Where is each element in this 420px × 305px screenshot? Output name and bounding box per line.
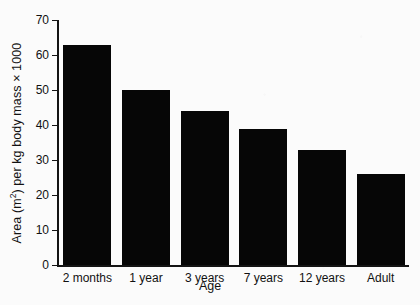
y-tick-label: 40 (36, 118, 49, 132)
y-tick-mark (52, 55, 57, 56)
y-tick-mark (52, 90, 57, 91)
y-tick-mark (52, 125, 57, 126)
y-tick-mark (52, 265, 57, 266)
y-axis-title: Area (m2) per kg body mass × 1000 (8, 18, 24, 268)
y-tick-mark (52, 160, 57, 161)
x-axis-line (57, 265, 409, 267)
y-tick-mark (52, 195, 57, 196)
y-tick-label: 60 (36, 48, 49, 62)
y-axis-line (57, 20, 59, 266)
plot-area: 010203040506070 2 months1 year3 years7 y… (57, 20, 409, 266)
y-axis-title-after: ) per kg body mass × 1000 (10, 43, 24, 194)
bar (122, 90, 170, 265)
x-axis-title: Age (0, 279, 420, 293)
bar (181, 111, 229, 265)
y-tick-label: 70 (36, 13, 49, 27)
bar-chart-figure: Area (m2) per kg body mass × 1000 010203… (0, 0, 420, 305)
bar (357, 174, 405, 265)
y-tick-mark (52, 20, 57, 21)
bar (239, 129, 287, 266)
bar (298, 150, 346, 266)
y-tick-label: 50 (36, 83, 49, 97)
y-tick-mark (52, 230, 57, 231)
y-tick-label: 10 (36, 223, 49, 237)
bar (63, 45, 111, 266)
y-axis-title-before: Area (m (10, 198, 24, 243)
y-tick-label: 0 (42, 258, 49, 272)
y-tick-label: 30 (36, 153, 49, 167)
y-tick-label: 20 (36, 188, 49, 202)
y-axis-title-superscript: 2 (8, 194, 18, 199)
